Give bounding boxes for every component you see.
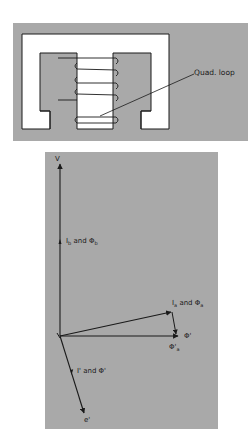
quad-loop-label: Quad. loop (194, 68, 235, 77)
core-diagram: Quad. loop (13, 23, 248, 141)
ia-phia-label: Ia and Φa (172, 299, 203, 308)
phasor-diagram: V Ib and Φb Ia and Φa Φ' Φ'a I' and Φ' e… (45, 152, 218, 429)
e-prime-label: e' (84, 416, 90, 424)
figure: Quad. loop V Ib and Φb Ia and Φa Φ' Φ'a … (0, 0, 251, 442)
phasor-panel-background (45, 152, 218, 429)
ib-phib-label: Ib and Φb (66, 237, 98, 246)
phi-prime-label: Φ' (184, 332, 192, 340)
voltage-label: V (55, 155, 60, 163)
i-prime-label: I' and Φ' (77, 367, 106, 375)
